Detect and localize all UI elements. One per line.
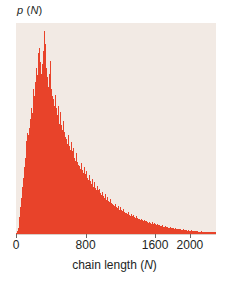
chart-figure: p (N) 080016002000 chain length (N)	[0, 0, 229, 282]
x-tick-label-2000: 2000	[177, 238, 204, 252]
x-axis-title-text: chain length	[72, 258, 137, 272]
x-tick-label-800: 800	[76, 238, 96, 252]
x-tick-label-0: 0	[13, 238, 20, 252]
histogram-bars	[16, 23, 216, 235]
x-axis-line	[16, 234, 216, 235]
y-axis-label-arg: N	[30, 4, 38, 16]
x-axis-title: chain length (N)	[0, 258, 229, 272]
y-axis-label: p (N)	[17, 4, 42, 16]
y-axis-label-close: )	[39, 4, 43, 16]
x-tick-label-1600: 1600	[142, 238, 169, 252]
x-axis-title-close: )	[153, 258, 157, 272]
x-axis-title-arg: N	[144, 258, 153, 272]
plot-area	[16, 23, 216, 235]
